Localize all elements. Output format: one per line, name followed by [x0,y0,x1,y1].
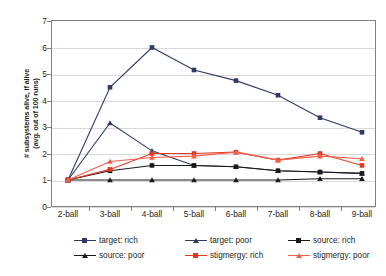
series-line [68,48,362,181]
legend-item[interactable]: source: rich [288,236,355,245]
data-point-square [108,85,113,90]
legend-marker-icon [74,236,96,245]
series-source-poor [65,176,365,182]
data-point-square [276,168,281,173]
legend-marker-icon [185,251,207,260]
data-point-square [150,45,155,50]
legend-item[interactable]: stigmergy: poor [288,251,369,260]
chart-container: # subsystems alive, if alive (avg. out o… [0,0,386,276]
data-point-square [360,171,365,176]
data-point-square [276,93,281,98]
data-point-square [108,167,113,172]
legend-label: stigmergy: poor [313,251,369,260]
data-point-square [360,130,365,135]
data-point-square [150,163,155,168]
legend-label: target: poor [210,236,252,245]
legend-marker-icon [288,236,310,245]
data-point-triangle [107,120,113,125]
data-point-square [234,78,239,83]
legend-label: source: poor [99,251,145,260]
legend-label: source: rich [313,236,355,245]
legend-item[interactable]: stigmergy: rich [185,251,263,260]
legend-label: target: rich [99,236,138,245]
data-point-square [192,163,197,168]
chart-legend: target: richtarget: poorsource: richsour… [0,236,386,272]
data-point-square [318,170,323,175]
legend-marker-icon [288,251,310,260]
data-point-square [318,115,323,120]
legend-item[interactable]: target: rich [74,236,138,245]
legend-marker-icon [74,251,96,260]
data-point-square [360,163,365,168]
legend-item[interactable]: target: poor [185,236,252,245]
data-point-square [192,68,197,73]
legend-label: stigmergy: rich [210,251,263,260]
legend-item[interactable]: source: poor [74,251,145,260]
data-point-square [234,164,239,169]
legend-marker-icon [185,236,207,245]
data-series-layer [0,0,386,276]
